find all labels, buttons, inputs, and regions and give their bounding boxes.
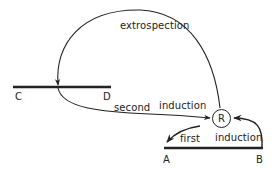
label-a: A: [163, 155, 170, 165]
label-second-induction: induction: [159, 101, 206, 111]
node-r: R: [212, 109, 231, 128]
label-d: D: [103, 92, 111, 102]
node-r-label: R: [218, 113, 225, 124]
label-second: second: [114, 103, 150, 113]
label-b: B: [256, 155, 263, 165]
label-c: C: [15, 92, 22, 102]
label-first: first: [180, 134, 200, 144]
label-first-induction: induction: [215, 133, 262, 143]
label-extrospection: extrospection: [120, 21, 190, 31]
